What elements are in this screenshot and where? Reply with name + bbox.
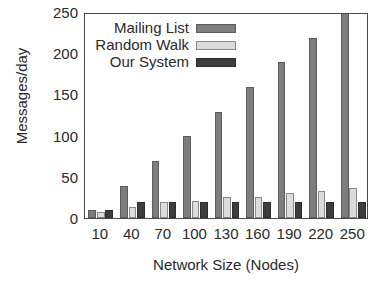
bar	[295, 202, 303, 218]
legend-label: Mailing List	[114, 20, 189, 36]
bar	[358, 202, 366, 218]
bar	[169, 202, 177, 218]
bar	[97, 212, 105, 218]
legend-item: Our System	[96, 54, 236, 70]
bar	[232, 202, 240, 218]
bar	[318, 191, 326, 218]
bar	[200, 202, 208, 218]
chart-legend: Mailing ListRandom WalkOur System	[96, 20, 236, 71]
bar	[137, 202, 145, 218]
bar	[349, 188, 357, 218]
bar	[223, 197, 231, 218]
bar	[120, 186, 128, 218]
bar	[309, 38, 317, 218]
y-tick-label: 0	[8, 211, 78, 226]
x-tick-label: 250	[332, 226, 372, 241]
bar	[192, 201, 200, 218]
bar	[215, 112, 223, 218]
bar	[326, 202, 334, 218]
y-tick-label: 150	[8, 87, 78, 102]
bar	[129, 207, 137, 218]
legend-swatch	[196, 24, 236, 33]
bar	[341, 13, 349, 218]
bar	[278, 62, 286, 218]
y-tick-label: 50	[8, 170, 78, 185]
bar	[286, 193, 294, 218]
bar	[105, 210, 113, 218]
bar-chart-figure: Messages/day 050100150200250 Mailing Lis…	[0, 0, 384, 288]
y-tick-label: 250	[8, 5, 78, 20]
bar	[255, 197, 263, 218]
bar	[88, 210, 96, 218]
bar	[152, 161, 160, 218]
legend-item: Random Walk	[96, 37, 236, 53]
legend-swatch	[196, 41, 236, 50]
legend-label: Our System	[110, 54, 189, 70]
bar	[246, 87, 254, 218]
y-tick-label: 200	[8, 46, 78, 61]
bar	[263, 202, 271, 218]
legend-swatch	[196, 58, 236, 67]
legend-item: Mailing List	[96, 20, 236, 36]
bar	[183, 136, 191, 218]
x-axis-label: Network Size (Nodes)	[84, 256, 368, 273]
legend-label: Random Walk	[95, 37, 189, 53]
y-tick-label: 100	[8, 129, 78, 144]
bar	[160, 202, 168, 218]
